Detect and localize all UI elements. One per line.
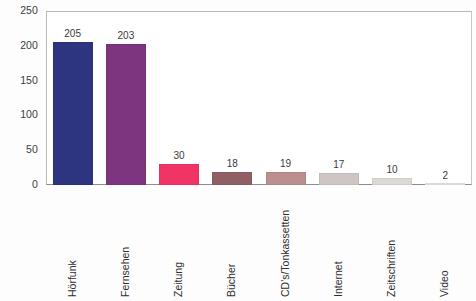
bar-group: 205 <box>53 11 93 185</box>
bar-value-label: 18 <box>227 158 238 169</box>
bar-group: 19 <box>266 11 306 185</box>
y-tick-label: 100 <box>0 109 38 120</box>
bar-group: 30 <box>159 11 199 185</box>
x-axis-tick-label: CD's/Tonkassetten <box>279 210 291 297</box>
bar-value-label: 2 <box>443 170 449 181</box>
x-label-slot: Internet <box>319 190 359 301</box>
bar-value-label: 10 <box>387 164 398 175</box>
x-axis-labels: HörfunkFernsehenZeitungBücherCD's/Tonkas… <box>46 190 472 301</box>
bar <box>106 44 146 185</box>
bar-value-label: 17 <box>333 159 344 170</box>
bar <box>266 172 306 185</box>
x-label-slot: Video <box>425 190 465 301</box>
y-tick-label: 150 <box>0 75 38 86</box>
x-label-slot: CD's/Tonkassetten <box>266 190 306 301</box>
y-tick-label: 50 <box>0 144 38 155</box>
x-label-slot: Bücher <box>212 190 252 301</box>
y-axis: 050100150200250 <box>0 0 41 190</box>
bar <box>425 183 465 185</box>
x-axis-tick-label: Fernsehen <box>119 247 131 297</box>
bar-group: 203 <box>106 11 146 185</box>
x-axis-tick-label: Video <box>438 270 450 297</box>
x-label-slot: Zeitschriften <box>372 190 412 301</box>
bar-value-label: 205 <box>64 28 81 39</box>
bar <box>159 164 199 185</box>
bar-group: 18 <box>212 11 252 185</box>
bar-value-label: 203 <box>118 30 135 41</box>
x-axis-tick-label: Internet <box>332 261 344 297</box>
bar <box>53 42 93 185</box>
bar <box>372 178 412 185</box>
bar-value-label: 19 <box>280 158 291 169</box>
bar-group: 2 <box>425 11 465 185</box>
x-label-slot: Hörfunk <box>53 190 93 301</box>
x-axis-tick-label: Zeitung <box>172 262 184 297</box>
y-tick-label: 200 <box>0 40 38 51</box>
y-tick-label: 0 <box>0 179 38 190</box>
bar-group: 10 <box>372 11 412 185</box>
bar <box>319 173 359 185</box>
bar-chart: 050100150200250 20520330181917102 Hörfun… <box>0 0 476 301</box>
bar-value-label: 30 <box>174 150 185 161</box>
bar <box>212 172 252 185</box>
bar-group: 17 <box>319 11 359 185</box>
x-axis-tick-label: Bücher <box>225 264 237 297</box>
bars-layer: 20520330181917102 <box>46 11 472 185</box>
y-tick-label: 250 <box>0 5 38 16</box>
x-label-slot: Fernsehen <box>106 190 146 301</box>
x-axis-tick-label: Hörfunk <box>66 260 78 297</box>
x-label-slot: Zeitung <box>159 190 199 301</box>
x-axis-tick-label: Zeitschriften <box>385 240 397 297</box>
